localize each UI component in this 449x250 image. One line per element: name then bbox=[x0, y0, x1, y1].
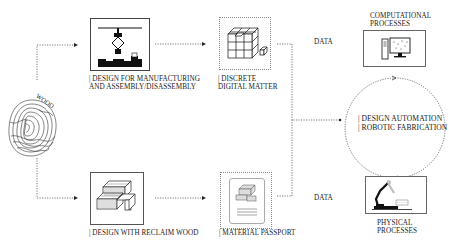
robot-arm-icon bbox=[366, 177, 426, 213]
timber-stack-icon bbox=[91, 173, 143, 224]
passport-node bbox=[220, 172, 272, 229]
cube-grid-icon bbox=[220, 18, 270, 69]
reclaim-node bbox=[90, 172, 144, 225]
reclaim-label: | DESIGN WITH RECLAIM WOOD bbox=[89, 229, 198, 238]
computer-icon bbox=[364, 31, 425, 66]
passport-card bbox=[229, 178, 265, 224]
dfma-node bbox=[90, 18, 150, 71]
physical-label-2: PROCESSES bbox=[377, 227, 417, 236]
data-label-bottom: DATA bbox=[314, 194, 333, 203]
cycle-label-1: | DESIGN AUTOMATION bbox=[358, 114, 442, 123]
physical-node bbox=[365, 176, 427, 214]
wood-group: WOOD bbox=[5, 88, 65, 163]
passport-label: | MATERIAL PASSPORT bbox=[219, 229, 296, 238]
data-label-top: DATA bbox=[314, 38, 333, 47]
computational-node bbox=[363, 30, 426, 67]
passport-document-icon bbox=[230, 179, 264, 223]
computational-label-2: PROCESSES bbox=[370, 20, 410, 29]
discrete-node bbox=[219, 17, 271, 70]
gripper-icon bbox=[91, 19, 149, 70]
cycle-label-2: | ROBOTIC FABRICATION bbox=[358, 123, 447, 132]
wood-rings-icon bbox=[5, 96, 60, 161]
discrete-label-2: DIGITAL MATTER bbox=[218, 83, 278, 92]
dfma-label-2: AND ASSEMBLY/DISASSEMBLY bbox=[89, 83, 196, 92]
